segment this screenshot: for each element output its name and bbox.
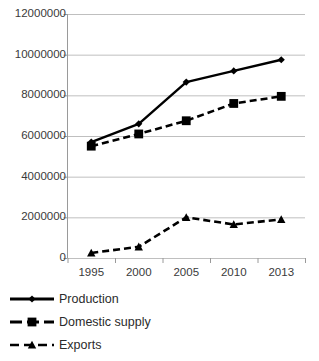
y-axis-tick-label: 10000000 — [2, 49, 66, 61]
marker-square — [134, 130, 143, 139]
x-axis-tick-label: 2000 — [115, 266, 163, 278]
marker-diamond — [278, 56, 285, 63]
plot-area: 1200000010000000800000060000004000000200… — [0, 0, 319, 290]
legend-item[interactable]: Production — [8, 288, 119, 310]
marker-square — [28, 318, 37, 327]
x-axis-tick-label: 1995 — [67, 266, 115, 278]
gridlines — [64, 15, 306, 259]
marker-triangle — [277, 215, 285, 223]
y-axis-tick-label: 4000000 — [2, 171, 66, 183]
line-chart: 1200000010000000800000060000004000000200… — [0, 0, 319, 361]
y-axis-tick-label: 8000000 — [2, 89, 66, 101]
legend-label: Exports — [56, 338, 101, 352]
series-exports — [87, 213, 285, 256]
legend-marker-square-icon — [8, 312, 56, 332]
series-line — [91, 217, 281, 253]
marker-square — [182, 116, 191, 125]
marker-square — [229, 99, 238, 108]
marker-diamond — [230, 67, 237, 74]
chart-legend: ProductionDomestic supplyExports — [0, 288, 319, 361]
marker-square — [87, 142, 96, 151]
x-axis-tick-label: 2005 — [162, 266, 210, 278]
x-axis-tick-label: 2010 — [210, 266, 258, 278]
legend-label: Domestic supply — [56, 315, 151, 329]
series-domestic-supply — [87, 92, 286, 151]
legend-item[interactable]: Domestic supply — [8, 311, 151, 333]
x-axis-tick-labels: 19952000200520102013 — [0, 258, 319, 290]
legend-label: Production — [56, 292, 119, 306]
y-axis-tick-labels: 1200000010000000800000060000004000000200… — [0, 0, 66, 290]
series-layer — [87, 56, 286, 256]
legend-marker-diamond-icon — [8, 289, 56, 309]
marker-diamond — [28, 295, 35, 302]
legend-item[interactable]: Exports — [8, 334, 101, 356]
marker-triangle — [182, 213, 190, 221]
y-axis-tick-label: 12000000 — [2, 8, 66, 20]
marker-square — [277, 92, 286, 101]
y-axis-tick-label: 6000000 — [2, 130, 66, 142]
y-axis-tick-label: 2000000 — [2, 211, 66, 223]
legend-marker-triangle-icon — [8, 335, 56, 355]
x-axis-tick-label: 2013 — [257, 266, 305, 278]
